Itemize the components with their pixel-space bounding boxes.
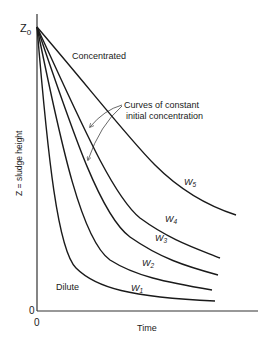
dilute-label: Dilute [56, 282, 79, 292]
curve-w4 [37, 27, 220, 258]
concentrated-label: Concentrated [72, 51, 126, 61]
w2-label: W2 [142, 258, 155, 269]
x-axis-label: Time [137, 323, 157, 333]
curve-w5 [37, 27, 236, 215]
z0-label: Z0 [20, 22, 32, 37]
annotation-line1: Curves of constant [124, 100, 200, 110]
w4-label: W4 [165, 214, 178, 225]
annotation-line2: initial concentration [126, 111, 203, 121]
y-axis-label: Z = sludge height [14, 130, 24, 196]
curve-w1 [37, 27, 215, 301]
curve-w2 [37, 27, 212, 290]
y-origin-label: 0 [29, 305, 35, 316]
settling-diagram: Z0 0 0 Time Z = sludge height Concentrat… [0, 0, 268, 348]
x-origin-label: 0 [34, 317, 40, 328]
w5-label: W5 [184, 177, 197, 188]
annotation-arrow-lower [88, 106, 122, 160]
w1-label: W1 [131, 283, 144, 294]
